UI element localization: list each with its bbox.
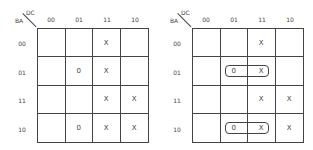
kmap-cell: X xyxy=(121,114,149,142)
karnaugh-map-left: DC BA 00 01 11 10 00 01 11 10 X 0 X X X … xyxy=(0,0,155,150)
row-header: 11 xyxy=(169,97,185,104)
kmap-cell xyxy=(38,86,66,114)
row-variables-label: BA xyxy=(170,17,178,24)
column-header: 11 xyxy=(93,16,121,23)
row-header: 01 xyxy=(169,69,185,76)
kmap-cell xyxy=(38,114,66,142)
row-header: 01 xyxy=(14,69,30,76)
kmap-cell xyxy=(38,29,66,57)
kmap-cell xyxy=(276,29,304,57)
kmap-cell xyxy=(276,57,304,85)
kmap-cell: X xyxy=(276,86,304,114)
kmap-cell: X xyxy=(93,114,121,142)
row-header: 11 xyxy=(14,97,30,104)
kmap-cell: X xyxy=(93,57,121,85)
row-header: 10 xyxy=(169,126,185,133)
column-header: 00 xyxy=(37,16,65,23)
row-header: 00 xyxy=(169,40,185,47)
kmap-cell: 0 xyxy=(66,114,94,142)
kmap-cell: X xyxy=(93,86,121,114)
grouping-loop xyxy=(225,122,269,134)
kmap-cell xyxy=(221,86,249,114)
kmap-cell xyxy=(66,86,94,114)
kmap-cell: X xyxy=(248,29,276,57)
column-variables-label: DC xyxy=(26,9,35,16)
kmap-cell: X xyxy=(121,86,149,114)
kmap-cell xyxy=(221,29,249,57)
kmap-cell: X xyxy=(276,114,304,142)
column-header: 01 xyxy=(220,16,248,23)
row-header: 10 xyxy=(14,126,30,133)
karnaugh-map-right: DC BA 00 01 11 10 00 01 11 10 X 0 X X X … xyxy=(155,0,310,150)
kmap-cell xyxy=(193,57,221,85)
grouping-loop xyxy=(225,65,269,77)
column-header: 10 xyxy=(121,16,149,23)
kmap-cell xyxy=(193,114,221,142)
column-header: 01 xyxy=(65,16,93,23)
kmap-cell xyxy=(193,29,221,57)
row-variables-label: BA xyxy=(15,17,23,24)
column-header: 10 xyxy=(276,16,304,23)
kmap-cell: X xyxy=(248,86,276,114)
kmap-grid: X 0 X X X 0 X X xyxy=(37,28,149,143)
column-variables-label: DC xyxy=(181,9,190,16)
column-header: 00 xyxy=(192,16,220,23)
kmap-cell xyxy=(121,29,149,57)
kmap-cell: 0 xyxy=(66,57,94,85)
row-header: 00 xyxy=(14,40,30,47)
kmap-cell xyxy=(121,57,149,85)
kmap-cell xyxy=(66,29,94,57)
kmap-cell xyxy=(193,86,221,114)
kmap-cell xyxy=(38,57,66,85)
kmap-cell: X xyxy=(93,29,121,57)
column-header: 11 xyxy=(248,16,276,23)
